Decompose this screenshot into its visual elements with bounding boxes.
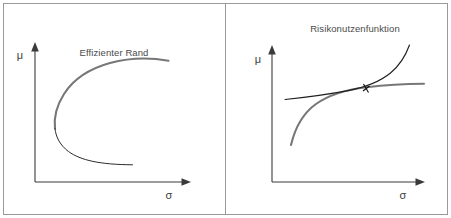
y-axis-label-mu-right: μ [255, 53, 261, 65]
y-axis-label-mu: μ [17, 49, 23, 61]
chart-title-risk-utility-function: Risikonutzenfunktion [310, 23, 400, 34]
y-axis-arrowhead-icon [31, 42, 39, 52]
curve-minimum-variance-lower [55, 129, 133, 165]
curve-risk-utility [285, 45, 410, 100]
curve-efficient-frontier-upper [55, 59, 169, 129]
x-axis-label-sigma-right: σ [400, 189, 407, 201]
figure-canvas: μ σ Effizienter Rand μ σ Risikon [0, 0, 451, 218]
x-axis-arrowhead-icon [182, 178, 192, 186]
x-axis-label-sigma: σ [166, 189, 173, 201]
figure-container: μ σ Effizienter Rand μ σ Risikon [0, 0, 451, 218]
panel-efficient-frontier: μ σ Effizienter Rand [17, 42, 191, 201]
curve-efficient-frontier-right [291, 84, 424, 145]
panel-risk-utility-function: μ σ Risikonutzenfunktion [255, 23, 425, 201]
x-axis-arrowhead-icon-right [416, 178, 426, 186]
y-axis-arrowhead-icon-right [268, 45, 276, 55]
chart-title-efficient-frontier: Effizienter Rand [79, 47, 148, 58]
